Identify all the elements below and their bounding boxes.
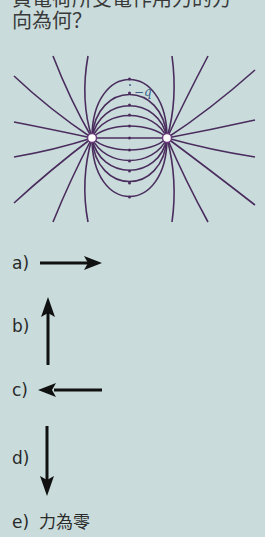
option-e-label: e) [12, 512, 29, 532]
option-e: e)力為零 [12, 512, 90, 532]
electric-field-diagram: −q [0, 50, 265, 240]
test-charge-point [129, 84, 131, 86]
question-panel: 負電荷所受電作用力的方 向為何？ [0, 0, 265, 537]
option-e-text: 力為零 [39, 512, 90, 532]
option-b-label: b) [12, 316, 29, 336]
field-direction-markers [128, 78, 131, 199]
right-charge [163, 134, 172, 143]
option-d-label: d) [12, 448, 29, 468]
test-charge-label: −q [134, 85, 152, 99]
field-lines [14, 56, 255, 222]
left-charge [88, 134, 97, 143]
option-a-label: a) [12, 253, 29, 273]
arrow-left-icon [36, 381, 104, 399]
question-text-line2: 向為何？ [12, 10, 92, 32]
arrow-right-icon [38, 254, 104, 272]
arrow-up-icon [39, 295, 57, 367]
option-c-label: c) [12, 380, 28, 400]
arrow-down-icon [38, 424, 56, 498]
